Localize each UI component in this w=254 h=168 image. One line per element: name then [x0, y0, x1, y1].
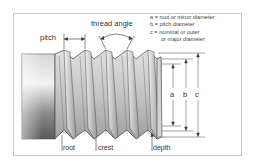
screw-threads [55, 50, 162, 139]
dimension-a-label: a [170, 91, 174, 99]
dimension-b-label: b [183, 91, 187, 99]
legend: a = root or minor diameter b = pitch dia… [150, 14, 215, 43]
dimension-c-label: c [195, 91, 199, 99]
root-label: root [63, 144, 75, 151]
thread-angle-dimension [99, 34, 134, 49]
thread-angle-label: thread angle [91, 20, 133, 28]
legend-item-c: c = nominal or outer [150, 29, 215, 36]
pitch-dimension [64, 34, 85, 49]
legend-item-a: a = root or minor diameter [150, 14, 215, 21]
pitch-label: pitch [40, 34, 56, 42]
crest-label: crest [98, 144, 113, 151]
depth-label: depth [153, 144, 171, 151]
legend-item-b: b = pitch diameter [150, 21, 215, 28]
legend-item-c-continued: or major diameter [150, 36, 215, 43]
screw-shank [22, 54, 55, 139]
